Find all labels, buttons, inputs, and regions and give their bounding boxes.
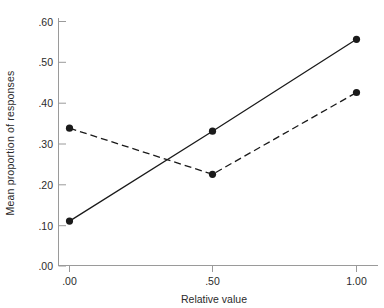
data-point xyxy=(66,125,73,132)
y-axis-ticks xyxy=(59,22,67,267)
y-tick-label-00: .00 xyxy=(38,260,53,272)
data-point xyxy=(66,218,73,225)
x-axis-tick-labels: .00 .50 1.00 xyxy=(62,275,367,287)
y-tick-label-30: .30 xyxy=(38,138,53,150)
x-tick-label-050: .50 xyxy=(205,275,220,287)
y-tick-label-10: .10 xyxy=(38,220,53,232)
x-tick-label-100: 1.00 xyxy=(346,275,367,287)
data-point xyxy=(353,89,360,96)
y-tick-label-20: .20 xyxy=(38,179,53,191)
y-tick-label-60: .60 xyxy=(38,16,53,28)
y-tick-label-40: .40 xyxy=(38,97,53,109)
y-axis-tick-labels: .60 .50 .40 .30 .20 .10 .00 xyxy=(38,16,53,273)
line-chart-svg: .60 .50 .40 .30 .20 .10 .00 .00 .50 1.00… xyxy=(0,0,384,308)
y-tick-label-50: .50 xyxy=(38,56,53,68)
x-tick-label-000: .00 xyxy=(62,275,77,287)
x-axis-title: Relative value xyxy=(181,293,247,305)
x-axis-ticks xyxy=(70,266,357,273)
y-axis-title: Mean proportion of responses xyxy=(4,70,16,215)
data-point xyxy=(209,171,216,178)
data-point xyxy=(353,36,360,43)
data-point xyxy=(209,128,216,135)
chart-figure: .60 .50 .40 .30 .20 .10 .00 .00 .50 1.00… xyxy=(0,0,384,308)
axis-spines xyxy=(58,18,378,266)
